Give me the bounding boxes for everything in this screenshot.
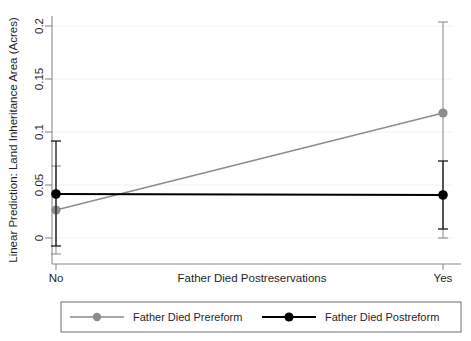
legend-item-postreform[interactable]: Father Died Postreform xyxy=(262,311,439,323)
legend-marker-postreform xyxy=(284,312,293,321)
data-point-prereform-yes xyxy=(438,108,447,117)
chart-figure: 0.2 0.15 0.1 0.05 0 Linear Prediction: L… xyxy=(0,0,471,341)
y-tick-label-0.05: 0.05 xyxy=(33,174,45,196)
y-axis-title: Linear Prediction: Land Inheritance Area… xyxy=(7,17,19,263)
legend-marker-prereform xyxy=(93,313,101,321)
y-tick-label-0.15: 0.15 xyxy=(33,68,45,90)
legend-label-prereform: Father Died Prereform xyxy=(133,311,242,323)
interaction-plot-svg: 0.2 0.15 0.1 0.05 0 Linear Prediction: L… xyxy=(0,0,471,341)
x-tick-label-yes: Yes xyxy=(434,272,453,284)
y-tick-label-0.1: 0.1 xyxy=(33,124,45,140)
x-axis-title: Father Died Postreservations xyxy=(178,272,327,284)
y-tick-label-0: 0 xyxy=(33,235,45,241)
data-point-postreform-no xyxy=(51,189,61,199)
chart-legend: Father Died Prereform Father Died Postre… xyxy=(61,302,461,332)
x-tick-label-no: No xyxy=(49,272,64,284)
y-tick-label-0.2: 0.2 xyxy=(33,18,45,34)
chart-background xyxy=(0,0,471,341)
data-point-postreform-yes xyxy=(438,190,448,200)
legend-label-postreform: Father Died Postreform xyxy=(325,311,439,323)
series-line-postreform xyxy=(56,194,443,195)
